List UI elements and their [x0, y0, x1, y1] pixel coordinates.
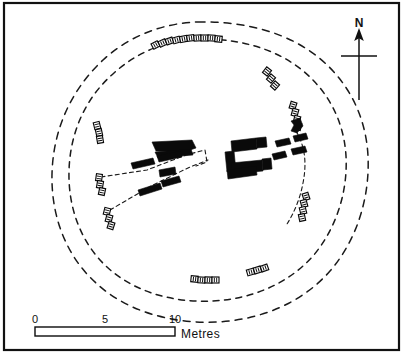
- kerbstone: [187, 35, 195, 42]
- stone-c-top-bar: [231, 138, 257, 152]
- kerbstone: [201, 35, 208, 41]
- kerbstone-outline: [298, 213, 305, 221]
- scale-bar-unit-label: Metres: [181, 327, 220, 341]
- site-plan-figure: N 0510 Metres: [0, 0, 403, 354]
- kerbstone: [98, 187, 105, 195]
- stone-ne-hook: [291, 118, 303, 133]
- kerbstone: [96, 136, 103, 144]
- kerbstone: [215, 36, 223, 43]
- kerb-south-east: [246, 264, 269, 276]
- inner-cairn-edge: [69, 39, 346, 301]
- scale-bar-tick-labels: 0510: [32, 313, 181, 325]
- kerb-west-upper: [93, 121, 103, 143]
- stone-e-upper-b: [293, 133, 308, 142]
- kerbstone-outline: [205, 277, 212, 283]
- stone-w-lower-a: [138, 183, 162, 196]
- plan-canvas: N 0510 Metres: [0, 0, 403, 354]
- kerb-south-west: [103, 207, 115, 229]
- kerbstone-hatch: [189, 36, 190, 40]
- kerbstone: [107, 221, 115, 230]
- kerbstone-hatch: [97, 176, 101, 177]
- stone-e-upper-a: [275, 138, 291, 147]
- kerbstone-outline: [96, 136, 103, 144]
- kerbstone-outline: [98, 187, 105, 195]
- figure-frame: [4, 3, 399, 350]
- kerbstone-outline: [260, 264, 269, 272]
- stone-c-top-bar-right: [256, 137, 267, 148]
- scale-tick-label: 5: [102, 313, 108, 325]
- kerbstone: [194, 35, 201, 41]
- stone-w-lower-b: [161, 176, 181, 187]
- kerbstone-outline: [198, 277, 205, 283]
- kerbstone: [198, 277, 205, 283]
- kerbstone-outline: [194, 35, 201, 41]
- passage-outline-layer: [101, 131, 305, 224]
- kerbstone: [212, 277, 219, 283]
- kerbstone: [260, 264, 269, 272]
- kerbstone: [191, 276, 199, 283]
- kerbstone: [205, 277, 212, 283]
- kerbstone-outline: [208, 35, 215, 41]
- north-label: N: [355, 16, 364, 30]
- stone-c-bottom-right: [262, 158, 272, 170]
- stone-e-mid-a: [272, 151, 287, 160]
- passage-chamber-west-link: [196, 150, 207, 166]
- kerbstone-hatch: [97, 178, 101, 179]
- scale-bar-outline: [35, 327, 175, 336]
- kerbstone-hatch: [191, 36, 192, 40]
- kerbstone-outline: [212, 277, 219, 283]
- kerbstone-outline: [191, 276, 199, 283]
- kerbstone-outline: [187, 35, 195, 42]
- kerbstone-outline: [215, 36, 223, 43]
- kerb-south-centre: [191, 276, 219, 284]
- scale-bar: 0510 Metres: [32, 313, 220, 341]
- scale-tick-label: 0: [32, 313, 38, 325]
- kerbstone-outline: [107, 221, 115, 230]
- kerbstone-outline: [201, 35, 208, 41]
- kerbstone: [298, 213, 305, 221]
- scale-tick-label: 10: [169, 313, 181, 325]
- stone-w-mid-a: [131, 158, 155, 169]
- kerb-north-arc: [151, 35, 222, 50]
- kerbstone: [208, 35, 215, 41]
- orthostat-layer: [131, 118, 308, 196]
- kerb-north-east: [262, 67, 279, 90]
